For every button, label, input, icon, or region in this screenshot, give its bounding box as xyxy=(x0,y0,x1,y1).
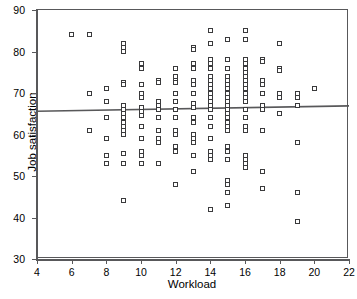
data-point xyxy=(260,107,265,112)
data-point xyxy=(87,128,92,133)
data-point xyxy=(104,136,109,141)
x-axis-tick-label: 22 xyxy=(343,266,355,278)
data-point xyxy=(225,57,230,62)
data-point xyxy=(243,165,248,170)
data-point xyxy=(121,198,126,203)
x-axis-tick xyxy=(106,259,107,264)
x-axis-title: Workload xyxy=(36,278,348,290)
data-point xyxy=(139,82,144,87)
data-point xyxy=(139,124,144,129)
data-point xyxy=(87,32,92,37)
data-point xyxy=(121,151,126,156)
data-point xyxy=(191,140,196,145)
data-point xyxy=(139,153,144,158)
data-point xyxy=(121,49,126,54)
data-point xyxy=(312,86,317,91)
data-point xyxy=(173,132,178,137)
x-axis-tick-label: 18 xyxy=(274,266,286,278)
data-point xyxy=(139,113,144,118)
data-point xyxy=(260,169,265,174)
data-point xyxy=(121,82,126,87)
data-point xyxy=(156,161,161,166)
data-point xyxy=(295,95,300,100)
data-point xyxy=(243,128,248,133)
data-point xyxy=(225,149,230,154)
x-axis-tick-label: 14 xyxy=(204,266,216,278)
x-axis-tick-label: 4 xyxy=(34,266,40,278)
x-axis-tick xyxy=(72,259,73,264)
y-axis-tick-label: 80 xyxy=(13,46,25,58)
data-point xyxy=(295,190,300,195)
data-point xyxy=(208,28,213,33)
data-point xyxy=(121,161,126,166)
x-axis-tick-label: 10 xyxy=(135,266,147,278)
data-point xyxy=(191,169,196,174)
data-point xyxy=(87,91,92,96)
y-axis-tick-label: 70 xyxy=(13,87,25,99)
data-point xyxy=(225,157,230,162)
data-point xyxy=(191,82,196,87)
data-point xyxy=(173,99,178,104)
data-point xyxy=(156,128,161,133)
data-point xyxy=(225,128,230,133)
data-point xyxy=(104,153,109,158)
data-point xyxy=(208,115,213,120)
data-point xyxy=(191,91,196,96)
data-point xyxy=(191,153,196,158)
data-point xyxy=(156,140,161,145)
x-axis-tick xyxy=(349,259,350,264)
x-axis-tick xyxy=(280,259,281,264)
x-axis-tick-label: 20 xyxy=(308,266,320,278)
x-axis-tick-label: 16 xyxy=(239,266,251,278)
y-axis-tick-label: 30 xyxy=(13,253,25,265)
data-point xyxy=(208,136,213,141)
data-point xyxy=(139,161,144,166)
data-point xyxy=(173,66,178,71)
plot-area: 30405060708090 46810121416182022 xyxy=(36,9,348,258)
y-axis-tick-label: 40 xyxy=(13,212,25,224)
x-axis-tick-label: 6 xyxy=(69,266,75,278)
data-point xyxy=(173,182,178,187)
x-axis-tick xyxy=(37,259,38,264)
data-point xyxy=(260,82,265,87)
data-point xyxy=(277,95,282,100)
data-point xyxy=(260,91,265,96)
data-point xyxy=(104,161,109,166)
data-point xyxy=(277,111,282,116)
data-point xyxy=(139,136,144,141)
data-point xyxy=(156,107,161,112)
scatter-chart-figure: Job satisfaction 30405060708090 46810121… xyxy=(0,0,357,299)
data-point xyxy=(208,66,213,71)
x-axis-tick-label: 8 xyxy=(103,266,109,278)
data-point xyxy=(191,120,196,125)
data-point xyxy=(156,80,161,85)
x-axis-tick xyxy=(176,259,177,264)
data-point xyxy=(225,182,230,187)
y-axis-tick-label: 90 xyxy=(13,4,25,16)
data-point xyxy=(121,132,126,137)
data-point xyxy=(295,103,300,108)
data-point xyxy=(191,47,196,52)
data-point xyxy=(191,105,196,110)
data-point xyxy=(139,66,144,71)
data-point xyxy=(173,107,178,112)
data-point xyxy=(243,28,248,33)
data-point xyxy=(156,115,161,120)
data-point xyxy=(243,37,248,42)
data-point xyxy=(173,115,178,120)
data-point xyxy=(208,124,213,129)
data-point xyxy=(104,86,109,91)
data-point xyxy=(191,66,196,71)
x-axis-tick xyxy=(141,259,142,264)
data-point xyxy=(243,115,248,120)
x-axis-tick xyxy=(210,259,211,264)
data-point xyxy=(260,186,265,191)
x-axis-spine xyxy=(36,259,350,261)
data-point xyxy=(208,157,213,162)
data-point xyxy=(277,68,282,73)
data-point xyxy=(139,95,144,100)
x-axis-tick xyxy=(245,259,246,264)
x-axis-tick-label: 12 xyxy=(170,266,182,278)
data-point xyxy=(208,107,213,112)
data-point xyxy=(225,203,230,208)
